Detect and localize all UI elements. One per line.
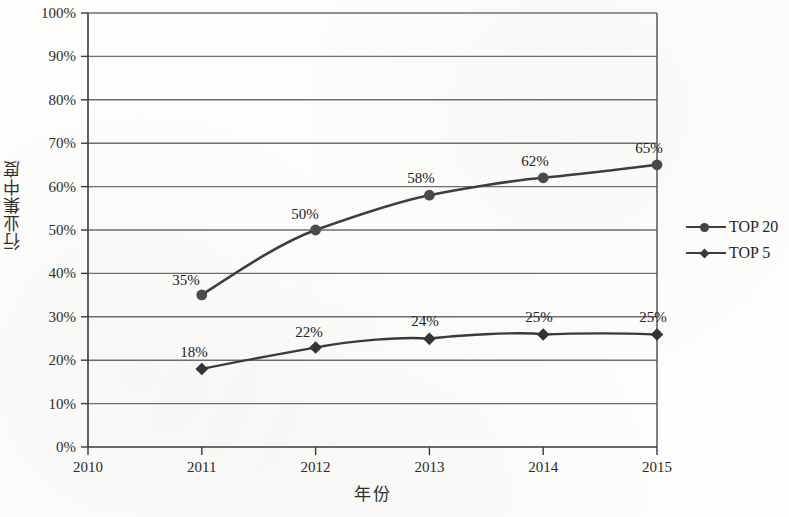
line-chart: 100% 90% 80% 70% 60% 50% 40% 30% 20% 10%… [0,0,789,517]
data-point [196,290,207,301]
data-label: 22% [295,324,323,340]
data-point [538,172,549,183]
x-tick-label: 2011 [187,459,216,475]
x-tick-label: 2010 [73,459,103,475]
series-top5 [195,328,663,375]
y-tick-labels: 100% 90% 80% 70% 60% 50% 40% 30% 20% 10%… [41,5,76,455]
y-tick-label: 80% [49,92,77,108]
chart-legend: TOP 20 TOP 5 [686,214,778,266]
y-tick-label: 0% [56,439,76,455]
x-tick-labels: 2010 2011 2012 2013 2014 2015 [73,459,672,475]
y-tick-label: 30% [49,309,77,325]
legend-label: TOP 20 [729,218,778,236]
legend-item-top20[interactable]: TOP 20 [686,214,778,240]
data-point [424,190,435,201]
legend-marker-circle-icon [686,220,726,234]
y-tick-label: 10% [49,396,77,412]
x-tick-label: 2015 [642,459,672,475]
legend-marker-diamond-icon [686,246,726,260]
y-axis-title: 行业集中度 [4,160,30,250]
y-tick-label: 90% [49,48,77,64]
x-tick-label: 2014 [528,459,559,475]
y-tick-label: 70% [49,135,77,151]
data-label: 65% [635,140,663,156]
data-label: 50% [291,206,319,222]
data-label: 35% [172,272,200,288]
y-tick-marks [81,13,88,447]
data-point [537,328,550,341]
data-point [652,159,663,170]
chart-page: 100% 90% 80% 70% 60% 50% 40% 30% 20% 10%… [0,0,789,517]
x-tick-label: 2012 [301,459,331,475]
x-tick-label: 2013 [414,459,444,475]
x-axis-title: 年份 [0,480,745,505]
legend-label: TOP 5 [729,244,770,262]
y-tick-label: 20% [49,352,77,368]
data-label: 62% [521,153,549,169]
data-point [195,363,208,376]
legend-item-top5[interactable]: TOP 5 [686,240,778,266]
data-point [651,328,664,341]
data-point [309,341,322,354]
data-label: 58% [407,170,435,186]
y-tick-label: 100% [41,5,76,21]
y-tick-label: 40% [49,265,77,281]
x-tick-marks [88,447,657,455]
data-label: 24% [411,313,439,329]
y-tick-label: 60% [49,179,77,195]
data-label: 25% [525,309,553,325]
y-tick-label: 50% [49,222,77,238]
data-label: 18% [180,344,208,360]
data-point [310,225,321,236]
data-point [423,332,436,345]
gridlines [88,13,657,404]
data-label: 25% [639,309,667,325]
